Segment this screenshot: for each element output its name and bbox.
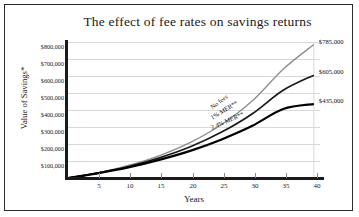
y-tick-label-600000: $600,000: [41, 77, 64, 84]
x-tick-mark-35: [286, 173, 287, 178]
y-tick-label-200000: $200,000: [41, 145, 64, 152]
x-tick-label-35: 35: [283, 182, 290, 190]
endpoint-label-1-mer: $605,000: [319, 68, 344, 75]
chart-title: The effect of fee rates on savings retur…: [60, 14, 335, 30]
x-tick-label-30: 30: [252, 182, 259, 190]
x-tick-label-40: 40: [314, 182, 321, 190]
y-tick-label-300000: $300,000: [41, 128, 64, 135]
x-tick-label-5: 5: [97, 182, 101, 190]
x-tick-mark-30: [255, 173, 256, 178]
x-tick-label-15: 15: [158, 182, 165, 190]
x-tick-label-10: 10: [127, 182, 134, 190]
y-tick-label-100000: $100,000: [41, 162, 64, 169]
y-axis-title: Value of Savings*: [19, 39, 29, 157]
x-tick-mark-15: [161, 173, 162, 178]
x-tick-label-25: 25: [221, 182, 228, 190]
endpoint-label-24-mer: $435,000: [319, 97, 344, 104]
chart-figure-inner: The effect of fee rates on savings retur…: [5, 5, 352, 210]
chart-figure: The effect of fee rates on savings retur…: [4, 4, 353, 211]
x-tick-mark-20: [193, 173, 194, 178]
series-line-24-mer: [68, 104, 314, 178]
y-tick-label-500000: $500,000: [41, 94, 64, 101]
x-tick-mark-5: [99, 173, 100, 178]
x-tick-mark-40: [317, 173, 318, 178]
series-curves: [68, 42, 320, 178]
endpoint-label-no-fees: $785,000: [319, 38, 344, 45]
y-axis-tick-labels: $800,000 $700,000 $600,000 $500,000 $400…: [5, 5, 64, 212]
y-tick-label-700000: $700,000: [41, 60, 64, 67]
plot-area: [68, 42, 320, 178]
x-axis-title: Years: [68, 194, 320, 204]
y-tick-label-800000: $800,000: [41, 43, 64, 50]
series-line-1-mer: [68, 75, 314, 178]
x-tick-mark-25: [224, 173, 225, 178]
x-tick-label-20: 20: [190, 182, 197, 190]
y-tick-label-400000: $400,000: [41, 111, 64, 118]
y-axis-line: [65, 40, 68, 180]
x-tick-mark-10: [130, 173, 131, 178]
